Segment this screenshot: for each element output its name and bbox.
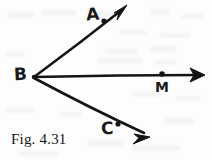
point-label-b: B — [14, 66, 28, 84]
point-m-dot — [159, 71, 165, 77]
point-label-a: A — [85, 6, 99, 24]
figure-container: A B M C Fig. 4.31 — [0, 0, 212, 160]
ray-bm — [34, 68, 205, 82]
figure-caption: Fig. 4.31 — [11, 131, 67, 148]
point-label-c: C — [101, 120, 114, 137]
vertex-b-dot — [32, 75, 36, 79]
point-a-dot — [101, 18, 106, 23]
point-c-dot — [115, 121, 120, 126]
point-label-m: M — [155, 80, 169, 94]
ray-ba — [34, 5, 127, 77]
